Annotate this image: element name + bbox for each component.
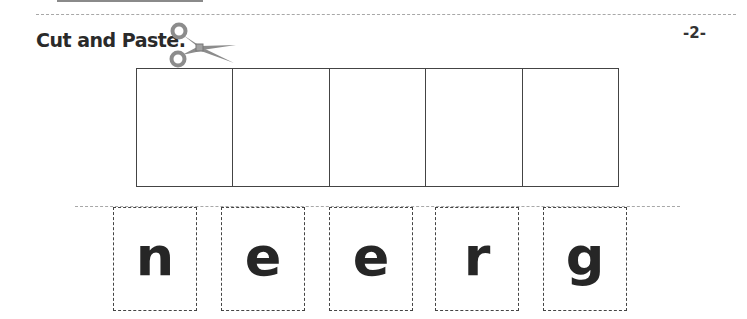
letter: r bbox=[464, 230, 491, 284]
letter: e bbox=[353, 230, 390, 284]
page-number: -2- bbox=[683, 24, 706, 42]
letter-card[interactable]: g bbox=[543, 207, 627, 311]
letter-card[interactable]: e bbox=[221, 207, 305, 311]
paste-box-5[interactable] bbox=[523, 69, 618, 186]
paste-area bbox=[136, 68, 619, 187]
paste-box-2[interactable] bbox=[233, 69, 329, 186]
instruction-title: Cut and Paste. bbox=[36, 29, 185, 51]
letter: n bbox=[136, 230, 174, 284]
scissors-icon bbox=[166, 22, 240, 68]
paste-box-4[interactable] bbox=[426, 69, 522, 186]
letter: e bbox=[245, 230, 282, 284]
letter-card[interactable]: r bbox=[435, 207, 519, 311]
top-cut-line bbox=[36, 14, 736, 15]
paste-box-1[interactable] bbox=[137, 69, 233, 186]
letter-card[interactable]: n bbox=[113, 207, 197, 311]
letter-card[interactable]: e bbox=[329, 207, 413, 311]
paste-box-3[interactable] bbox=[330, 69, 426, 186]
letter: g bbox=[566, 230, 605, 284]
top-rule bbox=[57, 0, 203, 2]
